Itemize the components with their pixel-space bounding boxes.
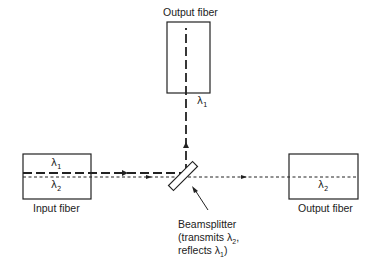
arrow-icon [146, 175, 152, 179]
lambda2-label-input: λ2 [51, 179, 61, 193]
arrow-icon [122, 170, 128, 176]
output-fiber-right-label: Output fiber [298, 202, 353, 214]
lambda1-label-input: λ1 [51, 157, 61, 171]
lambda2-label-right: λ2 [318, 179, 328, 193]
output-fiber-top-label: Output fiber [163, 6, 218, 18]
beamsplitter-label: Beamsplitter [178, 218, 236, 230]
beamsplitter [169, 162, 198, 191]
output-fiber-top-box [167, 22, 210, 93]
beamsplitter-reflects-label: reflects λ1) [178, 244, 227, 261]
arrow-icon [183, 142, 189, 148]
lambda1-label-top: λ1 [197, 95, 207, 109]
beamsplitter-pointer [195, 190, 208, 210]
arrow-icon [241, 175, 247, 179]
arrow-icon [192, 186, 198, 193]
input-fiber-label: Input fiber [33, 202, 80, 214]
